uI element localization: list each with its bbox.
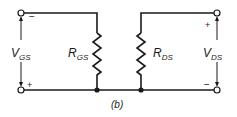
terminal-right-top — [214, 10, 220, 16]
circuit-diagram: − + + − VGS VDS RGS RDS (b) — [0, 0, 237, 117]
left-bottom-polarity: + — [27, 80, 32, 90]
vgs-arrow — [19, 16, 23, 87]
vds-arrow — [215, 16, 219, 87]
resistor-rds — [137, 33, 145, 90]
terminal-left-top — [18, 10, 24, 16]
rgs-label: RGS — [68, 46, 89, 62]
right-bottom-polarity: − — [204, 79, 210, 90]
resistor-rgs — [93, 33, 101, 90]
junction-dot-right — [138, 87, 143, 92]
right-top-wire — [141, 13, 214, 33]
figure-label: (b) — [111, 99, 123, 110]
rds-label: RDS — [153, 46, 173, 62]
vds-label: VDS — [203, 46, 223, 62]
left-top-polarity: − — [29, 11, 35, 22]
terminal-right-bottom — [214, 87, 220, 93]
left-top-wire — [24, 13, 97, 33]
junction-dot-left — [94, 87, 99, 92]
vgs-label: VGS — [11, 46, 31, 62]
terminal-left-bottom — [18, 87, 24, 93]
right-top-polarity: + — [205, 20, 210, 30]
